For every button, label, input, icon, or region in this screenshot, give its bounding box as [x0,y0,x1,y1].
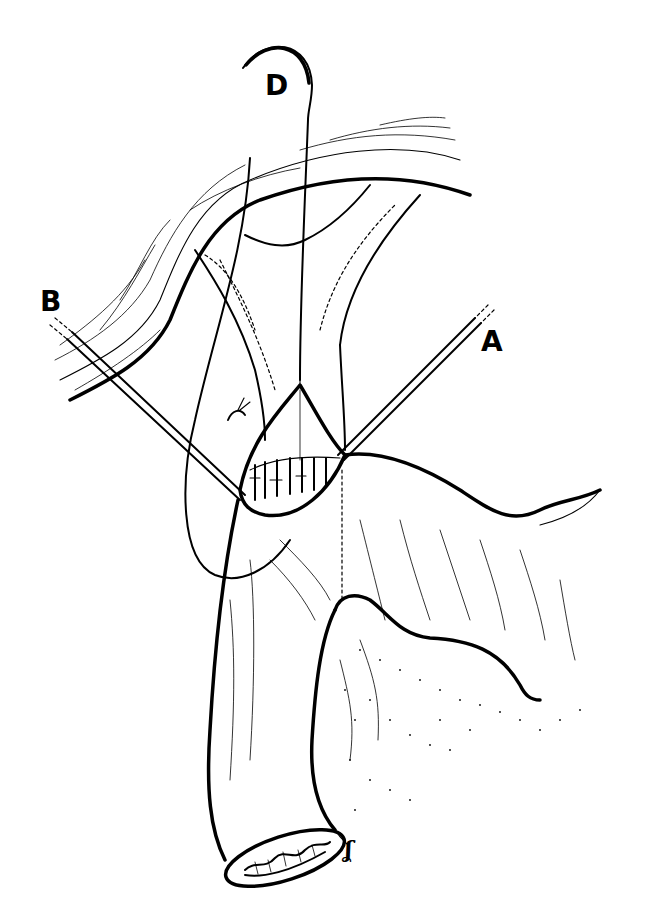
suture-stitches [250,458,326,500]
tied-suture [228,411,245,420]
stipple [344,649,581,811]
pancreas [312,596,581,845]
anastomosis [228,385,345,516]
duct-structure [195,185,420,450]
label-B: B [40,288,61,316]
bowel-cut-end [219,818,351,898]
illustration-canvas [0,0,654,917]
retractor-A [338,305,494,460]
artist-signature: ʆ [345,838,352,860]
retractor-B [50,318,245,500]
label-A: A [481,328,503,356]
label-D: D [265,72,288,100]
upper-organ-band [55,117,470,400]
